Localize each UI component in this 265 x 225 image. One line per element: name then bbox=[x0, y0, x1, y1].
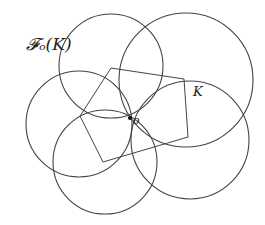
circle-bottom bbox=[53, 110, 157, 214]
origin-label: o bbox=[133, 114, 140, 127]
family-label: 𝓕ₒ(K) bbox=[26, 34, 72, 54]
body-k-label: K bbox=[193, 84, 203, 99]
circle-top bbox=[59, 14, 163, 118]
circle-bottom-right bbox=[131, 81, 249, 199]
circle-left bbox=[26, 71, 132, 177]
origin-point bbox=[128, 116, 132, 120]
